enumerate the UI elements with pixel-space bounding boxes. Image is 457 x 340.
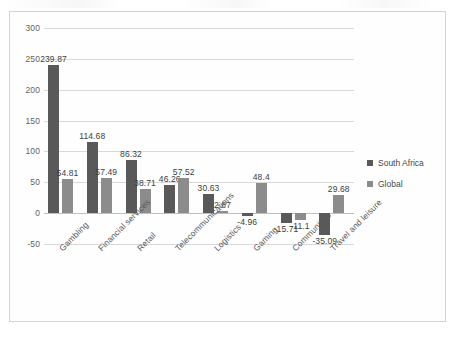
bar-global [333, 195, 344, 213]
data-label: 57.52 [173, 167, 195, 177]
data-label: 48.4 [253, 172, 270, 182]
legend-label: Global [378, 179, 403, 189]
legend-item-global: Global [367, 179, 442, 189]
chart-container: 300250200150100500-50 239.8754.81114.685… [9, 11, 446, 322]
x-axis-category-labels: GamblingFinancial servicesRetailTelecomm… [44, 246, 354, 247]
bar-global [101, 178, 112, 213]
bar-south-africa [164, 185, 175, 214]
scan-artifact [0, 0, 457, 8]
bar-global [256, 183, 267, 213]
bar-group: -35.0929.68 [315, 28, 354, 244]
y-axis-tick-label: 300 [6, 23, 40, 33]
bar-south-africa [87, 142, 98, 213]
bar-series-group: 239.8754.81114.6857.4986.3238.7146.2657.… [44, 28, 354, 244]
y-axis: 300250200150100500-50 [6, 28, 40, 244]
bar-global [295, 213, 306, 220]
y-axis-tick-label: 100 [6, 146, 40, 156]
data-label: 57.49 [95, 167, 117, 177]
y-axis-tick-label: 0 [6, 208, 40, 218]
legend-item-south-africa: South Africa [367, 158, 442, 168]
bar-group: 46.2657.52 [160, 28, 199, 244]
bar-group: -4.9648.4 [238, 28, 277, 244]
data-label: 239.87 [40, 54, 67, 64]
legend-swatch-icon [367, 181, 373, 187]
legend-label: South Africa [378, 158, 424, 168]
data-label: 54.81 [57, 168, 79, 178]
bar-south-africa [48, 65, 59, 213]
chart-legend: South Africa Global [367, 158, 442, 200]
bar-group: 114.6857.49 [83, 28, 122, 244]
legend-swatch-icon [367, 160, 373, 166]
y-axis-tick-label: 150 [6, 116, 40, 126]
bar-global [178, 178, 189, 213]
gridline [44, 244, 354, 245]
plot-area: 239.8754.81114.6857.4986.3238.7146.2657.… [44, 28, 354, 244]
data-label: 86.32 [120, 149, 142, 159]
data-label: 38.71 [134, 178, 156, 188]
data-label: 29.68 [328, 184, 350, 194]
y-axis-tick-label: -50 [6, 239, 40, 249]
bar-group: 239.8754.81 [44, 28, 83, 244]
y-axis-tick-label: 200 [6, 85, 40, 95]
bar-south-africa [242, 213, 253, 216]
data-label: 30.63 [198, 183, 220, 193]
bar-global [62, 179, 73, 213]
y-axis-tick-label: 250 [6, 54, 40, 64]
data-label: 114.68 [79, 131, 105, 141]
bar-group: -15.71-11.1 [277, 28, 316, 244]
y-axis-tick-label: 50 [6, 177, 40, 187]
